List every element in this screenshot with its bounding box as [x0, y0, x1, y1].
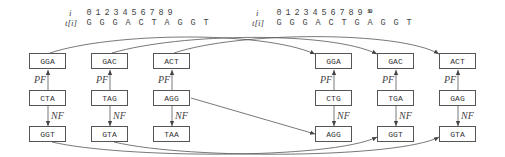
left-node-bottom: TAA	[153, 126, 190, 142]
nf-label: NF	[461, 110, 474, 121]
right-char: C	[326, 18, 336, 28]
right-node-bottom: GTA	[439, 126, 476, 142]
right-node-bottom: GGT	[377, 126, 414, 142]
right-node-mid: CTG	[315, 90, 352, 106]
pf-label: PF	[444, 74, 456, 85]
left-node-mid: CTA	[29, 90, 66, 106]
left-node-top: GAC	[91, 53, 128, 69]
right-char: A	[365, 18, 375, 28]
left-node-top: ACT	[153, 53, 190, 69]
cross-edge-gga	[50, 37, 315, 54]
nf-label: NF	[399, 110, 412, 121]
right-node-bottom: AGG	[315, 126, 352, 142]
right-node-top: ACT	[439, 53, 476, 69]
right-index-label: i	[256, 8, 259, 18]
nf-label: NF	[113, 110, 126, 121]
left-node-mid: TAG	[91, 90, 128, 106]
right-char: G	[300, 18, 310, 28]
left-node-top: GGA	[29, 53, 66, 69]
cross-edge-agg	[191, 98, 315, 134]
right-node-top: GGA	[315, 53, 352, 69]
nf-label: NF	[175, 110, 188, 121]
nf-label: NF	[51, 110, 64, 121]
left-node-bottom: GGT	[29, 126, 66, 142]
pf-label: PF	[96, 74, 108, 85]
right-text-label: t[i]	[252, 18, 264, 28]
right-node-mid: GAG	[439, 90, 476, 106]
right-char: A	[313, 18, 323, 28]
right-char: G	[287, 18, 297, 28]
pf-label: PF	[34, 74, 46, 85]
pf-label: PF	[158, 74, 170, 85]
right-node-top: GAC	[377, 53, 414, 69]
right-char: T	[339, 18, 349, 28]
left-node-mid: AGG	[153, 90, 190, 106]
left-node-bottom: GTA	[91, 126, 128, 142]
right-node-mid: TGA	[377, 90, 414, 106]
pf-label: PF	[320, 74, 332, 85]
pf-label: PF	[382, 74, 394, 85]
right-index: 10	[364, 8, 374, 15]
right-char: G	[391, 18, 401, 28]
right-char: T	[404, 18, 414, 28]
right-char: G	[274, 18, 284, 28]
right-char: G	[378, 18, 388, 28]
nf-label: NF	[337, 110, 350, 121]
right-string-header: i t[i] 0 1 2 3 4 5 6 7 8 9 10 G G G A C …	[0, 0, 505, 30]
right-char: G	[352, 18, 362, 28]
